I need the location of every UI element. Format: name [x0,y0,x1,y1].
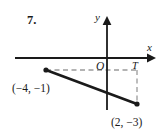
y-axis-arrowhead [103,16,112,25]
point-a-marker [43,67,48,72]
point-a-label: (−4, −1) [12,82,50,95]
point-t-label: T [132,60,139,71]
point-b-marker [134,101,139,106]
y-axis-label: y [94,11,100,23]
point-b-label: (2, −3) [111,116,143,129]
x-axis-label: x [146,41,152,53]
coordinate-plane-figure: 7. y x O T (−4, −1) (2, −3) [0,0,162,132]
x-axis-arrowhead [147,54,156,63]
item-number: 7. [27,13,36,27]
segment-ab [46,70,137,104]
origin-label: O [96,60,105,72]
